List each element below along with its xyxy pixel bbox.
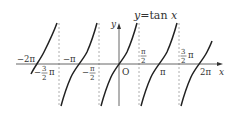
svg-text:π: π xyxy=(49,67,55,77)
tick-label-neg-3pi-2: − 3 2 π xyxy=(34,65,55,82)
svg-text:3: 3 xyxy=(181,48,185,56)
svg-text:2: 2 xyxy=(181,57,185,65)
svg-text:π: π xyxy=(188,50,194,60)
svg-text:π: π xyxy=(141,48,146,56)
tick-label-neg-pi: −π xyxy=(63,54,76,64)
tan-graph: y=tan x y x O −2π −π − 3 2 π − π 2 π 2 π… xyxy=(0,0,230,118)
svg-text:2: 2 xyxy=(141,57,145,65)
tick-label-pi: π xyxy=(160,67,166,77)
tick-label-3pi-2: 3 2 π xyxy=(181,48,195,65)
svg-text:2: 2 xyxy=(42,74,46,82)
svg-text:−: − xyxy=(34,67,41,77)
svg-text:π: π xyxy=(90,65,95,73)
svg-text:2: 2 xyxy=(90,74,94,82)
y-axis-arrow-icon xyxy=(117,23,121,29)
tick-label-pi-2: π 2 xyxy=(141,48,147,65)
tick-label-2pi: 2π xyxy=(200,67,211,77)
branch-4 xyxy=(141,23,177,106)
x-axis-label: x xyxy=(219,67,224,77)
tick-label-neg-2pi: −2π xyxy=(17,54,36,64)
graph-title: y=tan x xyxy=(133,9,178,22)
y-axis-label: y xyxy=(110,19,117,29)
svg-text:3: 3 xyxy=(42,65,46,73)
tick-label-neg-pi-2: − π 2 xyxy=(82,65,96,82)
x-axis-arrow-icon xyxy=(217,62,223,66)
svg-text:−: − xyxy=(82,67,89,77)
origin-label: O xyxy=(122,67,129,77)
